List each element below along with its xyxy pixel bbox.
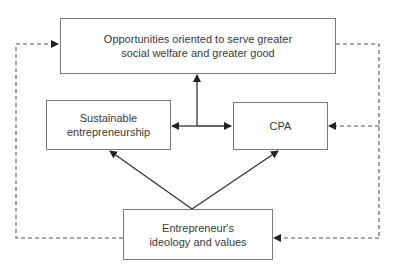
node-opportunities-line-2: social welfare and greater good xyxy=(104,46,292,60)
node-sustainable-line-2: entrepreneurship xyxy=(67,125,150,139)
dashed-line-opportunities-right-rail xyxy=(336,44,379,238)
node-opportunities-line-1: Opportunities oriented to serve greater xyxy=(104,32,292,46)
node-sustainable-line-1: Sustainable xyxy=(67,111,150,125)
node-ideology-line-1: Entrepreneur's xyxy=(149,221,246,235)
diagram-canvas: Opportunities oriented to serve greater … xyxy=(0,0,395,270)
node-cpa-label: CPA xyxy=(270,119,292,133)
node-cpa: CPA xyxy=(233,102,328,150)
arrow-ideology-to-sustainable xyxy=(110,151,192,209)
node-opportunities: Opportunities oriented to serve greater … xyxy=(60,18,336,74)
node-ideology-line-2: ideology and values xyxy=(149,235,246,249)
node-entrepreneur-ideology: Entrepreneur's ideology and values xyxy=(123,209,273,260)
arrow-ideology-to-cpa xyxy=(192,151,278,209)
node-sustainable-entrepreneurship: Sustainable entrepreneurship xyxy=(46,100,171,150)
